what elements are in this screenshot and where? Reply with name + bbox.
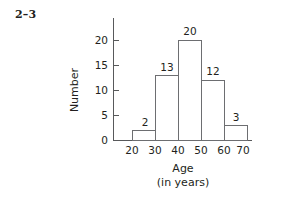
y-tick-label-5: 5: [101, 109, 108, 121]
x-axis-title: Age: [172, 162, 194, 175]
y-tick-label-10: 10: [95, 84, 108, 96]
histogram-svg: 0 5 10 15 20 Number: [0, 0, 282, 201]
bar-20-30: [133, 131, 156, 141]
x-tick-label-20: 20: [125, 144, 138, 156]
bar-value-label-20-30: 2: [142, 116, 149, 128]
bar-40-50: [179, 41, 202, 141]
bar-value-label-40-50: 20: [183, 25, 196, 37]
bar-50-60: [202, 81, 225, 141]
y-tick-label-0: 0: [101, 134, 108, 146]
y-tick-label-15: 15: [95, 59, 108, 71]
bar-60-70: [225, 126, 248, 141]
x-tick-label-60: 60: [217, 144, 230, 156]
histogram-chart: 0 5 10 15 20 Number: [0, 0, 282, 201]
bars-group: [133, 41, 248, 141]
y-tick-label-20: 20: [95, 34, 108, 46]
bar-value-label-50-60: 12: [206, 65, 219, 77]
bar-value-label-60-70: 3: [233, 111, 240, 123]
x-tick-label-30: 30: [148, 144, 161, 156]
y-axis-ticks: [114, 41, 119, 141]
x-tick-label-40: 40: [171, 144, 184, 156]
bar-30-40: [156, 76, 179, 141]
y-axis-title: Number: [68, 67, 81, 112]
bar-value-label-30-40: 13: [160, 61, 173, 73]
figure-root: 2–3 0 5 10 15 20 Number: [0, 0, 282, 201]
x-axis-title-units: (in years): [157, 176, 209, 189]
x-tick-label-70: 70: [236, 144, 249, 156]
x-tick-label-50: 50: [194, 144, 207, 156]
